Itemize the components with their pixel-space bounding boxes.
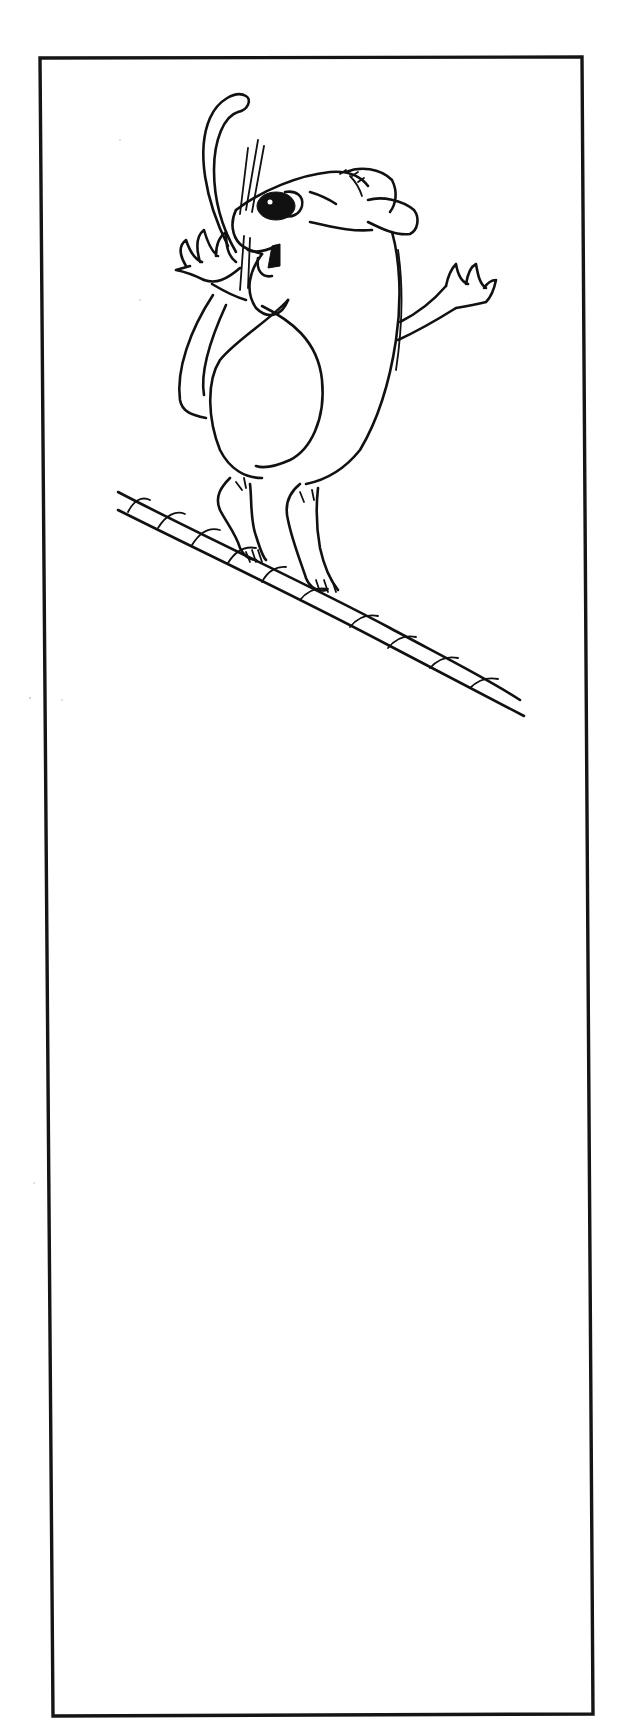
frame-border — [40, 57, 593, 1716]
mouse-icon — [176, 94, 496, 592]
rope-icon — [118, 492, 524, 716]
illustration-canvas — [0, 0, 628, 1723]
